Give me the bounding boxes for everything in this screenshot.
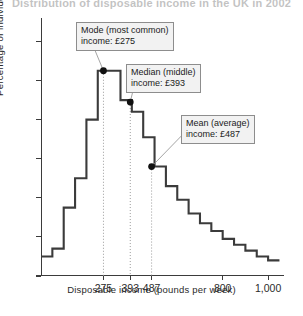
callout-mean-line1: Mean (average) xyxy=(186,118,250,129)
y-axis-title: Percentage of individuals xyxy=(0,0,5,96)
x-tick-label: 1,000 xyxy=(248,282,288,294)
x-tick-label: 800 xyxy=(203,282,243,294)
callout-mode: Mode (most common) income: £275 xyxy=(76,22,174,51)
plot-area: 024681012 2753934878001,000 xyxy=(41,18,284,276)
callout-median: Median (middle) income: £393 xyxy=(126,64,201,93)
annotation-leader-lines xyxy=(87,31,192,167)
callout-mode-line1: Mode (most common) xyxy=(81,25,169,36)
x-tick-label: 487 xyxy=(132,282,172,294)
marker-median xyxy=(127,99,134,106)
callout-mean: Mean (average) income: £487 xyxy=(181,115,255,144)
callout-mode-line2: income: £275 xyxy=(81,36,169,47)
marker-mode xyxy=(100,67,107,74)
marker-mean xyxy=(148,163,155,170)
step-line xyxy=(41,71,279,261)
callout-median-line1: Median (middle) xyxy=(131,67,196,78)
callout-median-line2: income: £393 xyxy=(131,78,196,89)
callout-mean-line2: income: £487 xyxy=(186,129,250,140)
histogram-step-curve xyxy=(41,18,284,276)
chart-title: Distribution of disposable income in the… xyxy=(0,0,303,9)
chart-figure: Distribution of disposable income in the… xyxy=(0,0,303,316)
